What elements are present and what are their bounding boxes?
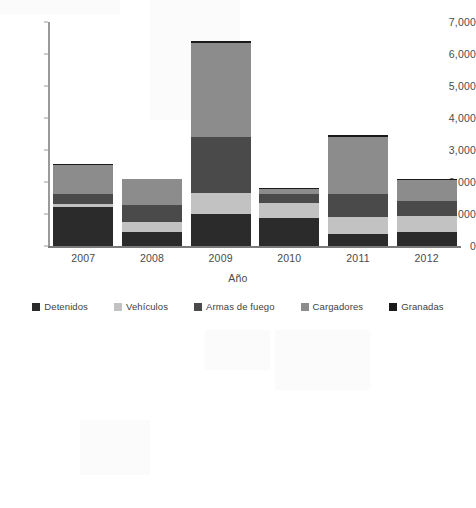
legend-label: Detenidos <box>44 301 88 312</box>
x-axis-line <box>48 246 461 248</box>
bar-stack <box>53 164 113 246</box>
bar-group[interactable] <box>397 22 457 246</box>
x-axis-title: Año <box>0 272 476 284</box>
bar-segment-armas-de-fuego[interactable] <box>191 137 251 193</box>
bar-segment-cargadores[interactable] <box>397 180 457 201</box>
y-axis-tick-mark <box>44 150 48 151</box>
chart-legend: DetenidosVehículosArmas de fuegoCargador… <box>0 301 476 312</box>
y-axis-tick-mark <box>44 214 48 215</box>
bar-segment-cargadores[interactable] <box>191 43 251 137</box>
bar-segment-cargadores[interactable] <box>53 165 113 194</box>
x-axis-tick-label: 2007 <box>71 252 95 264</box>
scan-artifact <box>80 420 150 475</box>
bar-segment-detenidos[interactable] <box>53 207 113 246</box>
bar-segment-vehículos[interactable] <box>397 216 457 232</box>
x-axis-tick-label: 2010 <box>277 252 301 264</box>
bar-segment-cargadores[interactable] <box>328 137 388 194</box>
bar-segment-cargadores[interactable] <box>122 179 182 205</box>
legend-item-vehículos[interactable]: Vehículos <box>114 301 168 312</box>
legend-swatch-icon <box>389 303 397 311</box>
bar-segment-vehículos[interactable] <box>122 222 182 232</box>
bar-segment-vehículos[interactable] <box>191 193 251 214</box>
bar-stack <box>191 41 251 246</box>
y-axis-tick-mark <box>44 54 48 55</box>
y-axis-tick-mark <box>44 22 48 23</box>
y-axis-tick-mark <box>44 118 48 119</box>
bar-segment-armas-de-fuego[interactable] <box>53 194 113 204</box>
scan-artifact <box>205 330 270 370</box>
bars-layer <box>49 22 461 246</box>
legend-item-detenidos[interactable]: Detenidos <box>32 301 88 312</box>
bar-group[interactable] <box>122 22 182 246</box>
bar-segment-armas-de-fuego[interactable] <box>328 194 388 218</box>
y-axis-tick-mark <box>44 246 48 247</box>
bar-segment-vehículos[interactable] <box>328 217 388 234</box>
bar-stack <box>122 179 182 246</box>
bar-stack <box>328 135 388 246</box>
legend-item-armas-de-fuego[interactable]: Armas de fuego <box>194 301 274 312</box>
x-axis-tick-label: 2009 <box>209 252 233 264</box>
legend-label: Granadas <box>401 301 444 312</box>
legend-label: Vehículos <box>126 301 168 312</box>
bar-group[interactable] <box>328 22 388 246</box>
bar-segment-detenidos[interactable] <box>259 218 319 246</box>
bar-segment-armas-de-fuego[interactable] <box>122 205 182 222</box>
bar-group[interactable] <box>191 22 251 246</box>
legend-swatch-icon <box>32 303 40 311</box>
bar-segment-detenidos[interactable] <box>191 214 251 246</box>
y-axis-tick-mark <box>44 86 48 87</box>
legend-label: Armas de fuego <box>206 301 274 312</box>
legend-swatch-icon <box>114 303 122 311</box>
legend-item-granadas[interactable]: Granadas <box>389 301 444 312</box>
y-axis-tick-mark <box>44 182 48 183</box>
x-axis-tick-label: 2008 <box>140 252 164 264</box>
bar-stack <box>397 179 457 246</box>
x-axis-tick-label: 2012 <box>415 252 439 264</box>
bar-stack <box>259 188 319 246</box>
bar-segment-detenidos[interactable] <box>328 234 388 246</box>
bar-segment-armas-de-fuego[interactable] <box>397 201 457 216</box>
x-axis-tick-label: 2011 <box>346 252 369 264</box>
legend-swatch-icon <box>194 303 202 311</box>
bar-segment-vehículos[interactable] <box>259 203 319 217</box>
bar-segment-armas-de-fuego[interactable] <box>259 194 319 203</box>
bar-group[interactable] <box>259 22 319 246</box>
bar-segment-detenidos[interactable] <box>122 232 182 246</box>
legend-swatch-icon <box>301 303 309 311</box>
stacked-bar-chart: 01,0002,0003,0004,0005,0006,0007,000 200… <box>0 0 476 330</box>
scan-artifact <box>275 330 370 390</box>
bar-group[interactable] <box>53 22 113 246</box>
bar-segment-detenidos[interactable] <box>397 232 457 246</box>
legend-item-cargadores[interactable]: Cargadores <box>301 301 364 312</box>
legend-label: Cargadores <box>313 301 364 312</box>
